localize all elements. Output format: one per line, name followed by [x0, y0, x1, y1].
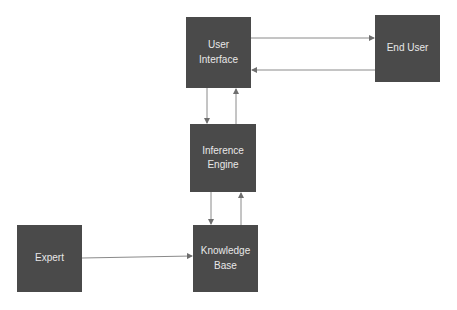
arrow-expert-to-kb: [82, 256, 192, 258]
node-inference-engine: Inference Engine: [190, 124, 256, 192]
node-user-interface: User Interface: [186, 17, 251, 88]
node-end-user: End User: [375, 15, 440, 82]
node-expert: Expert: [17, 225, 82, 292]
node-label: Knowledge Base: [201, 244, 250, 273]
node-label: Inference Engine: [202, 144, 244, 173]
node-label: User Interface: [199, 38, 238, 67]
node-label: Expert: [35, 251, 64, 266]
node-knowledge-base: Knowledge Base: [193, 225, 258, 292]
node-label: End User: [387, 41, 429, 56]
